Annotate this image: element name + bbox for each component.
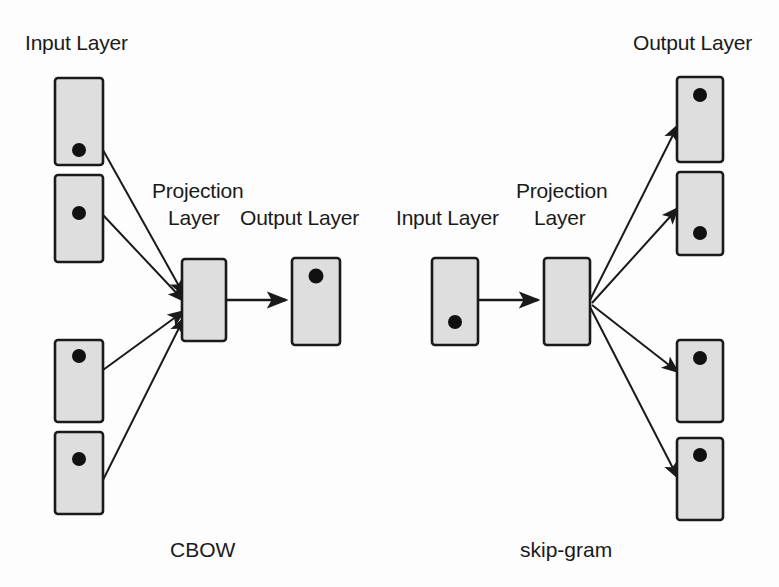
cbow-input-dot-4 [72,452,86,466]
cbow-input-boxes [55,78,103,514]
skipgram-output-box-2 [677,172,723,255]
skipgram-edge-4 [590,307,678,478]
skipgram-output-layer-label: Output Layer [633,31,752,55]
cbow-output-dot [309,269,324,284]
skipgram-output-dot-1 [693,88,707,102]
skipgram-output-dot-3 [693,351,707,365]
skipgram-output-dot-2 [693,226,707,240]
cbow-model-caption: CBOW [170,538,235,562]
skipgram-edge-1 [590,125,678,300]
skipgram-edge-2 [592,208,678,303]
cbow-edge-4 [103,318,184,480]
skipgram-edge-3 [592,305,678,372]
skipgram-input-layer-label: Input Layer [396,206,499,230]
skipgram-projection-layer-label-line1: Projection [516,179,607,203]
cbow-input-dot-1 [72,143,86,157]
cbow-projection-layer-label-line2: Layer [168,206,220,230]
skipgram-projection-box [544,258,590,345]
skipgram-output-edges [590,125,678,478]
cbow-input-dot-3 [72,349,86,363]
skipgram-input-box [432,258,478,345]
skipgram-input-dot [448,315,462,329]
cbow-projection-box [182,259,226,341]
cbow-input-box-4 [55,432,103,514]
skipgram-model-caption: skip-gram [520,538,612,562]
cbow-input-dot-2 [72,206,86,220]
skipgram-output-boxes [677,77,723,520]
diagram-svg [0,0,779,587]
skipgram-projection-layer-label-line2: Layer [534,206,586,230]
figure-canvas: Input Layer Projection Layer Output Laye… [0,0,779,587]
cbow-input-layer-label: Input Layer [25,31,128,55]
skipgram-output-dot-4 [693,448,707,462]
cbow-projection-layer-label-line1: Projection [152,179,243,203]
cbow-output-layer-label: Output Layer [240,206,359,230]
